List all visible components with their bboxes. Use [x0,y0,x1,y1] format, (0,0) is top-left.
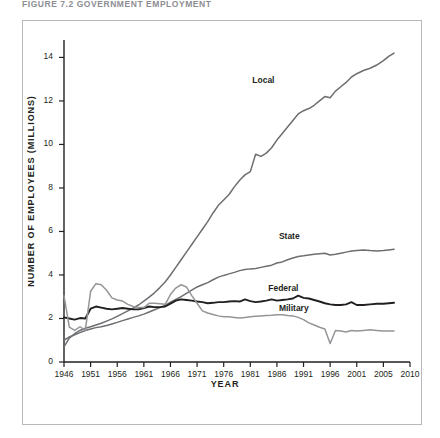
y-axis-tick-label: 2 [31,312,53,322]
y-axis-ticks [59,57,64,362]
y-axis-tick-label: 4 [31,269,53,279]
y-axis-tick-label: 8 [31,182,53,192]
y-axis-tick-label: 6 [31,225,53,235]
series-line-state [64,249,394,340]
x-axis-tick-label: 2010 [393,369,427,379]
y-axis-tick-label: 12 [31,95,53,105]
y-axis-tick-label: 10 [31,138,53,148]
series-line-military [64,284,394,344]
series-label-military: Military [279,303,309,313]
series-label-state: State [279,231,300,241]
y-axis-tick-label: 14 [31,51,53,61]
series-label-federal: Federal [268,283,298,293]
x-axis-title: YEAR [170,379,280,389]
x-axis-ticks [64,362,410,367]
chart-series-group [64,53,394,347]
y-axis-tick-label: 0 [31,356,53,366]
series-label-local: Local [252,75,274,85]
series-line-local [64,53,394,347]
chart-axes [64,40,410,362]
chart-plot-area: NUMBER OF EMPLOYEES (MILLIONS) YEAR 0246… [0,0,440,438]
